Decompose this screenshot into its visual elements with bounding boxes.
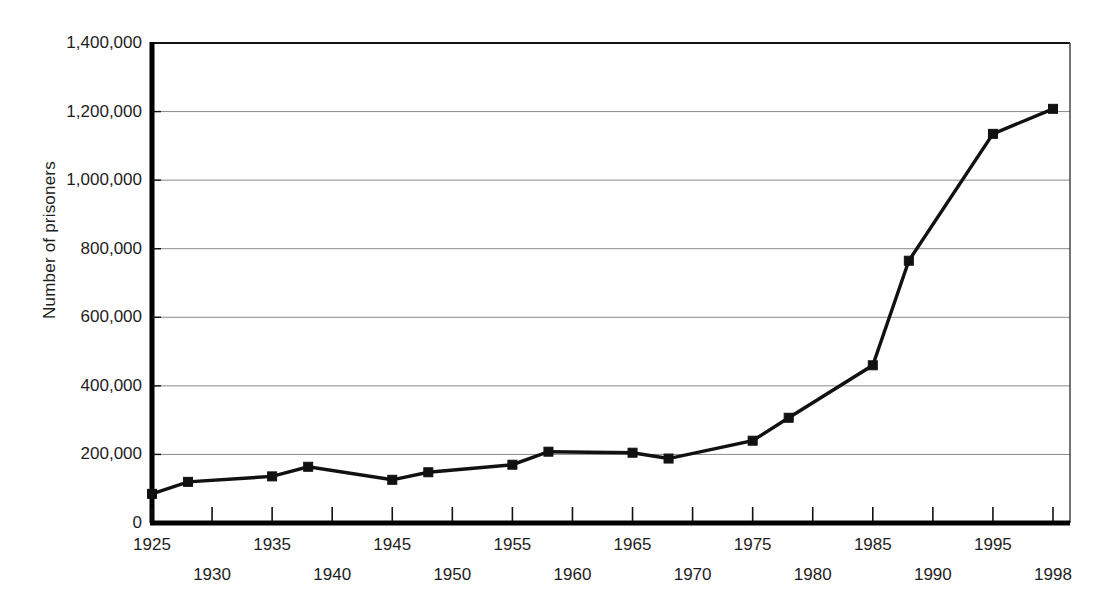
- y-tick-label: 600,000: [81, 308, 142, 325]
- y-tick-label: 0: [133, 514, 142, 531]
- x-tick-label: 1990: [914, 566, 952, 583]
- data-point-marker: [424, 468, 433, 477]
- data-point-marker: [544, 447, 553, 456]
- y-tick-label: 800,000: [81, 240, 142, 257]
- data-point-marker: [784, 413, 793, 422]
- data-point-marker: [664, 454, 673, 463]
- data-point-marker: [868, 361, 877, 370]
- x-tick-label: 1955: [493, 536, 531, 553]
- x-tick-label: 1940: [313, 566, 351, 583]
- data-point-marker: [748, 436, 757, 445]
- data-point-marker: [1049, 104, 1058, 113]
- x-tick-label: 1950: [433, 566, 471, 583]
- x-tick-label: 1975: [734, 536, 772, 553]
- x-tick-label: 1960: [554, 566, 592, 583]
- x-tick-label: 1985: [854, 536, 892, 553]
- y-tick-label: 1,400,000: [66, 34, 142, 51]
- data-point-marker: [388, 475, 397, 484]
- plot-area: [0, 0, 1097, 611]
- line-chart: Number of prisoners 0200,000400,000600,0…: [0, 0, 1097, 611]
- y-tick-label: 1,000,000: [66, 171, 142, 188]
- data-point-marker: [508, 460, 517, 469]
- y-tick-label: 200,000: [81, 445, 142, 462]
- x-tick-label: 1998: [1034, 566, 1072, 583]
- x-tick-label: 1945: [373, 536, 411, 553]
- x-tick-label: 1970: [674, 566, 712, 583]
- y-axis-tick-labels: 0200,000400,000600,000800,0001,000,0001,…: [36, 0, 142, 611]
- y-tick-label: 1,200,000: [66, 103, 142, 120]
- data-point-marker: [988, 129, 997, 138]
- x-tick-label: 1935: [253, 536, 291, 553]
- x-tick-label: 1995: [974, 536, 1012, 553]
- x-tick-label: 1930: [193, 566, 231, 583]
- x-tick-label: 1965: [614, 536, 652, 553]
- data-point-marker: [184, 477, 193, 486]
- data-point-marker: [628, 448, 637, 457]
- data-point-marker: [268, 472, 277, 481]
- x-tick-label: 1925: [133, 536, 171, 553]
- data-line-series-0: [152, 109, 1053, 494]
- data-point-marker: [304, 462, 313, 471]
- data-point-marker: [904, 256, 913, 265]
- y-tick-label: 400,000: [81, 377, 142, 394]
- data-point-marker: [148, 489, 157, 498]
- x-tick-label: 1980: [794, 566, 832, 583]
